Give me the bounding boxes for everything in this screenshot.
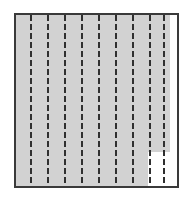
figure-root [0,0,193,204]
white-right-strip [170,15,177,186]
white-notch-bottom-right [148,152,170,186]
gray-shaded-area [16,15,170,186]
figure-canvas [0,0,193,204]
